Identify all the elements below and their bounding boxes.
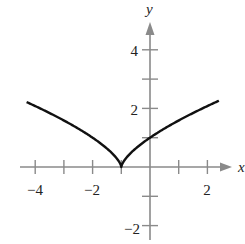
y-axis-arrow-icon	[146, 22, 155, 35]
x-axis-label: x	[237, 159, 245, 175]
x-tick-label-neg2: −2	[84, 182, 100, 198]
y-tick-label-2: 2	[131, 102, 139, 118]
y-tick-label-neg2: −2	[124, 221, 140, 237]
x-axis	[20, 160, 232, 174]
function-graph: −4 −2 2 4 2 −2 y x	[0, 0, 245, 244]
y-tick-label-4: 4	[131, 43, 139, 59]
x-axis-arrow-icon	[220, 163, 232, 172]
y-axis	[142, 22, 158, 240]
y-axis-label: y	[144, 1, 153, 17]
function-curve	[27, 101, 219, 167]
x-tick-label-neg4: −4	[27, 182, 43, 198]
x-tick-label-2: 2	[203, 182, 211, 198]
